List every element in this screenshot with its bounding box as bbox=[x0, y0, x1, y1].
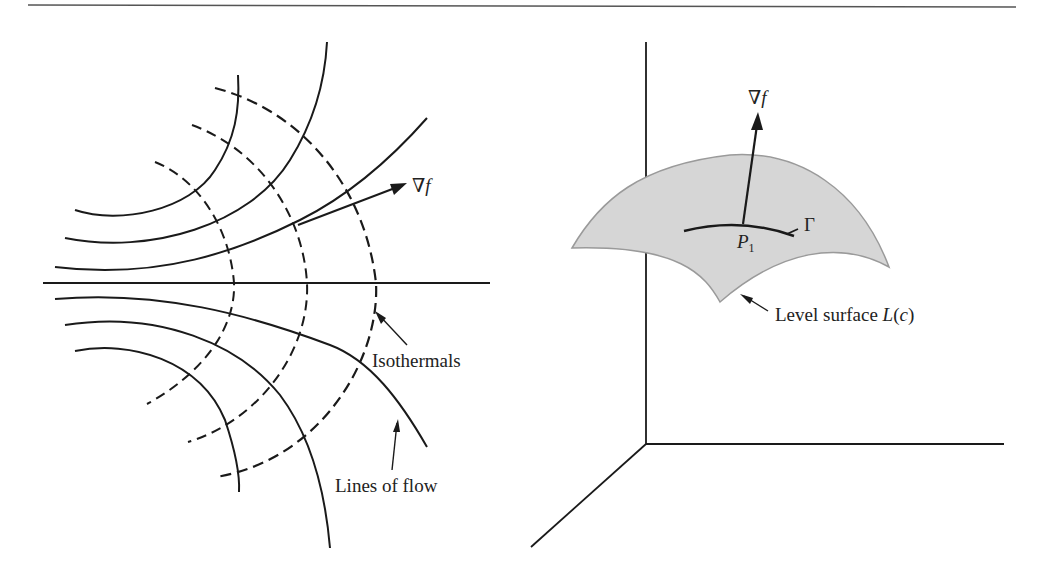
isothermals-pointer-head bbox=[375, 311, 386, 324]
flow-line-lower-1 bbox=[75, 348, 239, 492]
gradient-arrow-head bbox=[390, 183, 407, 195]
flow-line-upper-1 bbox=[75, 75, 238, 216]
lines-of-flow-label: Lines of flow bbox=[335, 475, 438, 496]
left-panel bbox=[43, 42, 490, 548]
gradient-label-right: ∇f bbox=[748, 87, 769, 108]
gradient-arrow-shaft bbox=[298, 188, 395, 225]
flow-line-lower-3 bbox=[55, 297, 427, 447]
gradient-label-left: ∇f bbox=[412, 175, 433, 196]
right-panel bbox=[531, 42, 1004, 547]
x-axis bbox=[531, 444, 646, 547]
flow-pointer-head bbox=[393, 419, 400, 432]
figure: ∇f Isothermals Lines of flow ∇f P1 Γ Lev… bbox=[0, 0, 1042, 579]
surface-pointer-head bbox=[740, 294, 753, 304]
level-surface-label: Level surface L(c) bbox=[775, 304, 914, 326]
gamma-label: Γ bbox=[804, 214, 815, 235]
flow-line-upper-3 bbox=[55, 118, 427, 270]
level-surface bbox=[572, 155, 889, 302]
top-rule bbox=[28, 5, 1016, 7]
gradient-normal-head bbox=[751, 112, 763, 130]
isothermals-label: Isothermals bbox=[372, 350, 461, 371]
